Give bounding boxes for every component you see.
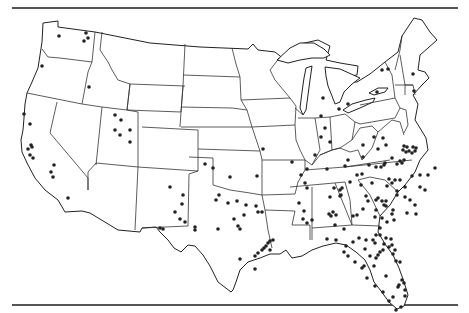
location-dot bbox=[374, 208, 378, 212]
location-dot bbox=[242, 213, 246, 217]
location-dot bbox=[367, 163, 371, 167]
location-dot bbox=[30, 145, 34, 149]
location-dot bbox=[411, 72, 415, 76]
location-dot bbox=[361, 155, 365, 159]
location-dot bbox=[348, 180, 352, 184]
location-dot bbox=[193, 225, 197, 229]
location-dot bbox=[328, 140, 332, 144]
location-dot bbox=[390, 181, 394, 185]
location-dot bbox=[253, 267, 257, 271]
location-dot bbox=[319, 114, 323, 118]
location-dot bbox=[412, 89, 416, 93]
location-dot bbox=[368, 254, 372, 258]
location-dot bbox=[398, 159, 402, 163]
location-dot bbox=[255, 174, 259, 178]
location-dot bbox=[323, 126, 327, 130]
location-dot bbox=[423, 188, 427, 192]
location-dot bbox=[333, 223, 337, 227]
location-dot bbox=[319, 135, 323, 139]
location-dot bbox=[254, 204, 258, 208]
location-dot bbox=[408, 198, 412, 202]
location-dot bbox=[380, 216, 384, 220]
location-dot bbox=[361, 143, 365, 147]
location-dot bbox=[366, 199, 370, 203]
location-dot bbox=[374, 256, 378, 260]
location-dot bbox=[402, 158, 406, 162]
location-dot bbox=[338, 188, 342, 192]
location-dot bbox=[256, 251, 260, 255]
location-dot bbox=[382, 242, 386, 246]
location-dot bbox=[399, 305, 403, 309]
location-dot bbox=[383, 161, 387, 165]
location-dot bbox=[364, 238, 368, 242]
location-dot bbox=[244, 203, 248, 207]
location-dot bbox=[118, 133, 122, 137]
location-dot bbox=[26, 147, 30, 151]
location-dot bbox=[301, 217, 305, 221]
location-dot bbox=[342, 250, 346, 254]
location-dot bbox=[351, 214, 355, 218]
location-dot bbox=[329, 214, 333, 218]
location-dot bbox=[393, 178, 397, 182]
location-dot bbox=[339, 193, 343, 197]
location-dot bbox=[310, 218, 314, 222]
location-dot bbox=[360, 172, 364, 176]
location-dot bbox=[180, 202, 184, 206]
location-dot bbox=[238, 257, 242, 261]
location-dot bbox=[297, 201, 301, 205]
location-dot bbox=[238, 227, 242, 231]
location-dot bbox=[303, 181, 307, 185]
location-dot bbox=[395, 189, 399, 193]
location-dot bbox=[211, 166, 215, 170]
location-dot bbox=[394, 259, 398, 263]
location-dot bbox=[378, 250, 382, 254]
location-dot bbox=[385, 220, 389, 224]
location-dot bbox=[384, 143, 388, 147]
location-dot bbox=[351, 240, 355, 244]
location-dot bbox=[378, 226, 382, 230]
location-dot bbox=[387, 177, 391, 181]
location-dot bbox=[392, 218, 396, 222]
location-dot bbox=[373, 241, 377, 245]
location-dot bbox=[343, 164, 347, 168]
location-dot bbox=[418, 173, 422, 177]
location-dot bbox=[387, 245, 391, 249]
location-dot bbox=[268, 248, 272, 252]
location-dot bbox=[361, 207, 365, 211]
location-dot bbox=[346, 102, 350, 106]
location-dot bbox=[158, 226, 162, 230]
location-dot bbox=[381, 136, 385, 140]
location-dot bbox=[305, 221, 309, 225]
location-dot bbox=[378, 233, 382, 237]
location-dot bbox=[305, 167, 309, 171]
location-dot bbox=[357, 236, 361, 240]
location-dot bbox=[365, 276, 369, 280]
location-dot bbox=[418, 185, 422, 189]
location-dot bbox=[380, 199, 384, 203]
location-dot bbox=[119, 118, 123, 122]
location-dot bbox=[346, 158, 350, 162]
location-dot bbox=[426, 173, 430, 177]
location-dot bbox=[31, 156, 35, 160]
location-dot bbox=[86, 36, 90, 40]
location-dot bbox=[337, 107, 341, 111]
location-dot bbox=[28, 122, 32, 126]
location-dot bbox=[401, 148, 405, 152]
location-dot bbox=[353, 260, 357, 264]
location-dot bbox=[381, 248, 385, 252]
location-dot bbox=[373, 284, 377, 288]
location-dot bbox=[355, 173, 359, 177]
location-dot bbox=[235, 199, 239, 203]
location-dot bbox=[403, 185, 407, 189]
location-dot bbox=[363, 247, 367, 251]
location-dot bbox=[400, 278, 404, 282]
location-dot bbox=[386, 67, 390, 71]
location-dot bbox=[325, 237, 329, 241]
location-dot bbox=[28, 153, 32, 157]
location-dot bbox=[374, 165, 378, 169]
location-dot bbox=[261, 147, 265, 151]
location-dot bbox=[390, 156, 394, 160]
location-dot bbox=[216, 227, 220, 231]
location-dot bbox=[376, 147, 380, 151]
location-dot bbox=[359, 183, 363, 187]
